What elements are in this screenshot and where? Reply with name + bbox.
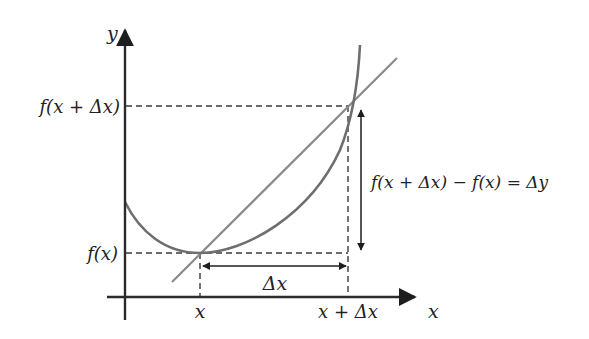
label-f-x-plus-dx: f(x + Δx) (37, 96, 120, 117)
secant-line (172, 58, 397, 282)
label-x-plus-dx-point: x + Δx (318, 301, 378, 322)
label-delta-y-equation: f(x + Δx) − f(x) = Δy (369, 172, 549, 192)
function-curve (125, 45, 360, 253)
y-axis-label: y (106, 22, 118, 44)
dashed-guides (126, 106, 348, 297)
label-x-point: x (195, 300, 206, 322)
label-delta-x: Δx (262, 272, 288, 294)
x-axis-label: x (428, 300, 439, 322)
label-f-x: f(x) (85, 243, 118, 264)
secant-diagram: y x f(x + Δx) f(x) x x + Δx Δx f(x + Δx)… (0, 0, 589, 339)
